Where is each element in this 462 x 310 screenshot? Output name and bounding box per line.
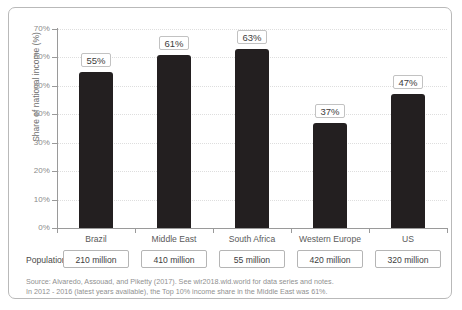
population-row-label: Population bbox=[26, 255, 67, 265]
x-axis-line bbox=[57, 228, 448, 229]
y-tick-label: 50% bbox=[16, 81, 50, 90]
chart-frame: Share of national income (%) 0%10%20%30%… bbox=[8, 7, 452, 299]
population-value-box: 420 million bbox=[297, 250, 363, 268]
bar bbox=[391, 94, 425, 228]
category-label: Brazil bbox=[57, 234, 135, 244]
y-tick-label: 70% bbox=[16, 24, 50, 33]
bar bbox=[313, 123, 347, 228]
y-tick-label: 20% bbox=[16, 166, 50, 175]
figure-panel: Share of national income (%) 0%10%20%30%… bbox=[0, 0, 462, 310]
y-axis-line bbox=[57, 28, 58, 229]
population-value-box: 320 million bbox=[375, 250, 441, 268]
population-value-box: 410 million bbox=[141, 250, 207, 268]
bar bbox=[235, 49, 269, 228]
bar-value-label: 55% bbox=[81, 53, 111, 67]
bar-value-label: 47% bbox=[393, 75, 423, 89]
bar-value-label: 37% bbox=[315, 104, 345, 118]
source-note-line-2: In 2012 - 2016 (latest years available),… bbox=[26, 287, 446, 297]
population-value-box: 210 million bbox=[63, 250, 129, 268]
category-label: South Africa bbox=[213, 234, 291, 244]
y-tick-label: 10% bbox=[16, 195, 50, 204]
category-label: US bbox=[369, 234, 447, 244]
y-tick-label: 40% bbox=[16, 109, 50, 118]
bar-value-label: 61% bbox=[159, 36, 189, 50]
category-label: Western Europe bbox=[291, 234, 369, 244]
source-note-line-1: Source: Alvaredo, Assouad, and Piketty (… bbox=[26, 277, 446, 287]
bar-value-label: 63% bbox=[237, 30, 267, 44]
bar bbox=[157, 55, 191, 228]
population-value-box: 55 million bbox=[219, 250, 285, 268]
bar bbox=[79, 72, 113, 228]
source-note: Source: Alvaredo, Assouad, and Piketty (… bbox=[26, 277, 446, 297]
y-tick-label: 60% bbox=[16, 52, 50, 61]
y-tick-label: 30% bbox=[16, 138, 50, 147]
category-label: Middle East bbox=[135, 234, 213, 244]
y-tick-label: 0% bbox=[16, 223, 50, 232]
